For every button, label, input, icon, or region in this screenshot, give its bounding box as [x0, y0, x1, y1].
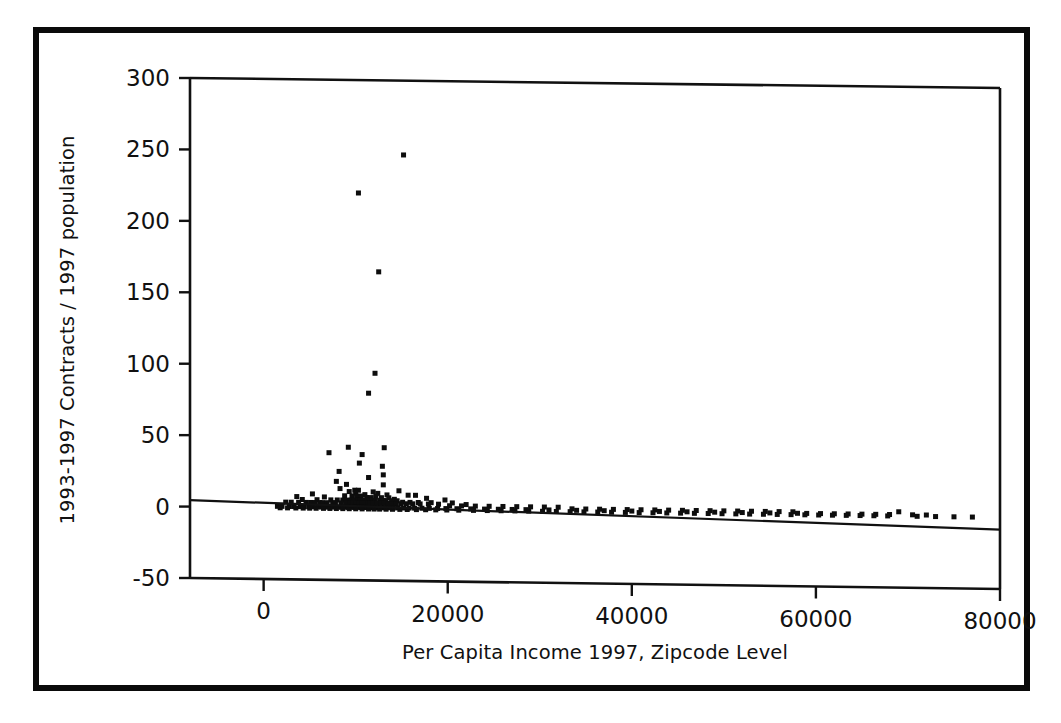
data-point — [322, 494, 327, 499]
data-point — [761, 512, 766, 517]
data-point — [360, 452, 365, 457]
data-point — [294, 494, 299, 499]
y-tick-label-150: 150 — [126, 279, 170, 305]
data-point — [609, 510, 614, 515]
x-tick-label-80000: 80000 — [963, 608, 1036, 634]
data-point — [346, 445, 351, 450]
data-point — [915, 514, 920, 519]
data-point — [340, 506, 345, 511]
figure-container: -50050100150200250300 020000400006000080… — [0, 0, 1061, 723]
data-point — [436, 502, 441, 507]
data-point — [574, 508, 579, 513]
data-point — [747, 512, 752, 517]
data-point — [924, 513, 929, 518]
data-point — [685, 509, 690, 514]
data-point — [314, 506, 319, 511]
y-tick-label-250: 250 — [126, 136, 170, 162]
y-tick-label-100: 100 — [126, 351, 170, 377]
x-tick-label-40000: 40000 — [595, 603, 668, 629]
data-point — [678, 511, 683, 516]
x-axis-title: Per Capita Income 1997, Zipcode Level — [402, 641, 788, 664]
y-axis-tick-labels: -50050100150200250300 — [126, 65, 170, 591]
data-point — [293, 505, 298, 510]
data-point — [556, 505, 561, 510]
data-point — [285, 505, 290, 510]
data-point — [706, 511, 711, 516]
data-point — [692, 511, 697, 516]
data-point — [301, 506, 306, 511]
data-point — [473, 504, 478, 509]
data-point — [424, 496, 429, 501]
data-point — [413, 493, 418, 498]
data-point — [664, 510, 669, 515]
data-point — [629, 509, 634, 514]
x-axis-tick-marks — [264, 579, 1000, 601]
data-point — [307, 506, 312, 511]
data-point — [775, 512, 780, 517]
data-point — [418, 501, 423, 506]
data-point — [310, 491, 315, 496]
data-point — [795, 511, 800, 516]
y-axis-title: 1993-1997 Contracts / 1997 population — [56, 136, 79, 525]
data-point — [326, 450, 331, 455]
data-point — [459, 503, 464, 508]
data-point — [464, 502, 469, 507]
x-tick-label-0: 0 — [256, 598, 271, 624]
data-point — [338, 486, 343, 491]
data-point — [528, 504, 533, 509]
y-axis-tick-marks — [179, 78, 190, 578]
data-point — [896, 509, 901, 514]
data-point — [720, 511, 725, 516]
data-point — [401, 152, 406, 157]
data-point — [802, 512, 807, 517]
data-point — [382, 445, 387, 450]
y-tick-label--50: -50 — [132, 565, 170, 591]
regression-trend-line — [190, 500, 1000, 529]
data-point — [342, 493, 347, 498]
data-point — [816, 512, 821, 517]
data-point — [767, 510, 772, 515]
data-point — [546, 507, 551, 512]
data-point — [356, 190, 361, 195]
data-point — [514, 504, 519, 509]
data-point — [334, 479, 339, 484]
data-point — [381, 472, 386, 477]
data-points-layer — [275, 152, 975, 519]
data-point — [844, 513, 849, 518]
data-point — [373, 371, 378, 376]
data-point — [871, 513, 876, 518]
data-point — [951, 514, 956, 519]
x-tick-label-20000: 20000 — [411, 601, 484, 627]
y-tick-label-200: 200 — [126, 208, 170, 234]
data-point — [385, 501, 390, 506]
data-point — [366, 391, 371, 396]
y-tick-label-300: 300 — [126, 65, 170, 91]
y-tick-label-50: 50 — [141, 422, 170, 448]
data-point — [487, 504, 492, 509]
data-point — [344, 482, 349, 487]
data-point — [789, 512, 794, 517]
data-point — [970, 515, 975, 520]
data-point — [595, 510, 600, 515]
scatter-plot-canvas: -50050100150200250300 020000400006000080… — [0, 0, 1061, 723]
data-point — [347, 489, 352, 494]
data-point — [376, 269, 381, 274]
data-point — [380, 464, 385, 469]
data-point — [442, 497, 447, 502]
data-point — [858, 513, 863, 518]
data-point — [542, 505, 547, 510]
data-point — [910, 512, 915, 517]
data-point — [381, 482, 386, 487]
data-point — [278, 505, 283, 510]
data-point — [404, 501, 409, 506]
data-point — [733, 511, 738, 516]
x-axis-tick-labels: 020000400006000080000 — [256, 598, 1036, 634]
data-point — [396, 488, 401, 493]
data-point — [712, 510, 717, 515]
data-point — [426, 502, 431, 507]
data-point — [371, 489, 376, 494]
data-point — [357, 461, 362, 466]
data-point — [406, 493, 411, 498]
data-point — [623, 510, 628, 515]
plot-box-top — [190, 78, 1000, 88]
